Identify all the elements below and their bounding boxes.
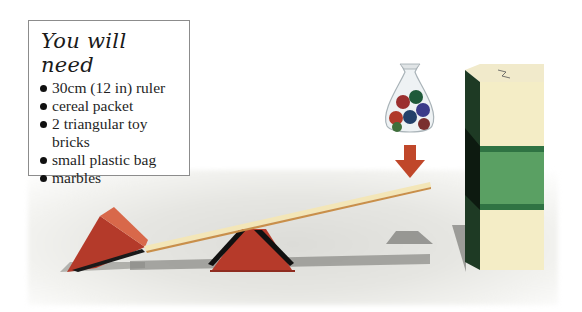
needs-item: 2 triangular toy bricks	[39, 115, 179, 151]
needs-item: 30cm (12 in) ruler	[39, 79, 179, 97]
needs-item: small plastic bag	[39, 151, 179, 169]
needs-list: 30cm (12 in) ruler cereal packet 2 trian…	[39, 79, 179, 187]
needs-title: You will need	[41, 29, 179, 77]
bag-shadow	[386, 231, 433, 244]
lever-illustration: You will need 30cm (12 in) ruler cereal …	[0, 0, 582, 312]
box-shadow	[452, 225, 466, 272]
cereal-packet	[465, 64, 544, 270]
bag-of-marbles	[386, 64, 434, 132]
needs-item: cereal packet	[39, 97, 179, 115]
down-arrow-icon	[395, 145, 425, 178]
you-will-need-box: You will need 30cm (12 in) ruler cereal …	[28, 20, 190, 176]
needs-item: marbles	[39, 169, 179, 187]
